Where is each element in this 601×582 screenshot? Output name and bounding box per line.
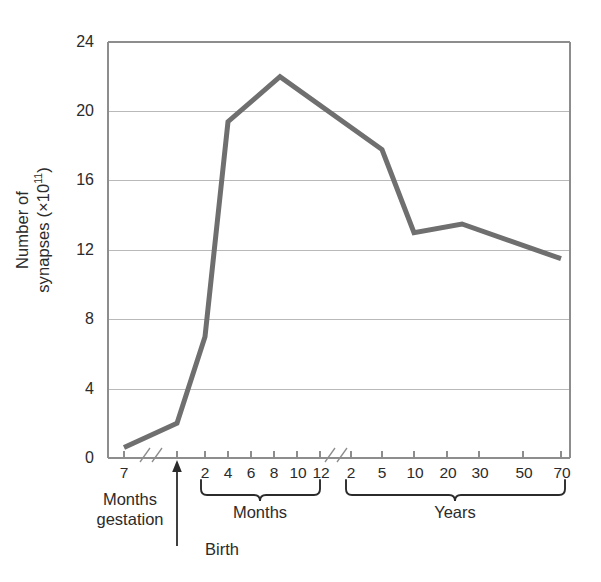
x-label-month-6: 6 [247, 464, 256, 482]
x-label-month-10: 10 [289, 464, 306, 482]
x-label-month-2: 2 [201, 464, 210, 482]
x-label-year-70: 70 [553, 464, 570, 482]
x-label-year-50: 50 [515, 464, 532, 482]
gestation-caption-line2: gestation [97, 510, 164, 530]
years-section-caption: Years [434, 503, 476, 522]
synapse-density-chart: Number of synapses (×1011) 24 20 16 12 8… [0, 0, 601, 582]
x-label-month-12: 12 [312, 464, 329, 482]
x-label-month-4: 4 [224, 464, 233, 482]
x-label-year-10: 10 [406, 464, 423, 482]
gestation-caption-line1: Months [97, 490, 164, 510]
x-label-year-5: 5 [378, 464, 387, 482]
gestation-section-caption: Months gestation [97, 490, 164, 530]
x-label-year-2: 2 [347, 464, 356, 482]
x-axis-tick-labels: 7 2 4 6 8 10 12 2 5 10 20 30 50 70 [0, 0, 601, 582]
x-label-gestation-7: 7 [120, 464, 129, 482]
birth-annotation-label: Birth [205, 540, 239, 559]
x-label-year-30: 30 [471, 464, 488, 482]
months-section-caption: Months [233, 503, 287, 522]
x-label-year-20: 20 [439, 464, 456, 482]
x-label-month-8: 8 [270, 464, 279, 482]
